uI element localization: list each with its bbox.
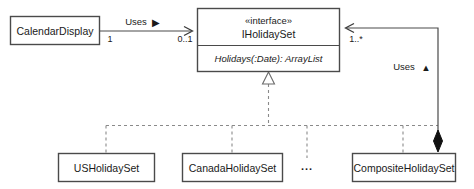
composition-diamond-icon (434, 130, 443, 152)
class-box-usholidayset[interactable]: USHolidaySet (59, 154, 155, 182)
realization-hollow-triangle-icon (263, 72, 275, 84)
uses-composition-direction-icon: ▲ (421, 62, 430, 73)
class-name-usholidayset: USHolidaySet (74, 162, 139, 174)
class-box-iholidayset[interactable]: «interface» IHolidaySet Holidays(:Date):… (198, 9, 340, 72)
uses-association-label: Uses (125, 16, 147, 27)
class-name-canadaholidayset: CanadaHolidaySet (189, 162, 277, 174)
uml-class-diagram: CalendarDisplay «interface» IHolidaySet … (0, 0, 474, 189)
uses-association-direction-icon: ▶ (152, 17, 160, 28)
uses-composition-label: Uses (393, 61, 415, 72)
class-name-compositeholidayset: CompositeHolidaySet (354, 162, 455, 174)
interface-stereotype: «interface» (245, 15, 292, 26)
multiplicity-composition-target: 1..* (349, 34, 363, 44)
class-box-calendar-display[interactable]: CalendarDisplay (11, 17, 100, 45)
more-subclasses-ellipsis: ... (301, 160, 313, 172)
multiplicity-target: 0..1 (177, 34, 192, 44)
class-box-canadaholidayset[interactable]: CanadaHolidaySet (183, 154, 283, 182)
class-name-calendar-display: CalendarDisplay (16, 25, 94, 37)
interface-name: IHolidaySet (242, 28, 296, 40)
realization-dashed-tree (106, 84, 438, 158)
multiplicity-source: 1 (107, 34, 112, 44)
diagram-canvas: CalendarDisplay «interface» IHolidaySet … (0, 0, 474, 189)
class-box-compositeholidayset[interactable]: CompositeHolidaySet (353, 154, 456, 182)
uses-composition-line (347, 28, 438, 150)
interface-method-signature: Holidays(:Date): ArrayList (215, 53, 323, 64)
